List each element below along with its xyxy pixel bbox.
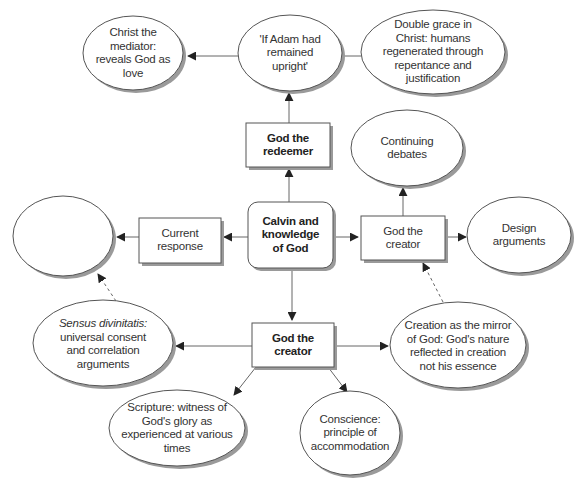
label-adam: 'If Adam had remained upright' [250,30,330,76]
edge-sensus-reformed-dashed [98,274,116,301]
label-sensus-rest: universal consent and correlation argume… [55,331,151,372]
label-conscience: Conscience: principle of accommodation [310,411,390,455]
label-double-grace: Double grace in Christ: humans regenerat… [378,24,488,80]
edge-creator-scripture [234,367,256,395]
label-calvin: Calvin and knowledge of God [255,206,326,264]
edge-creator-conscience [328,367,347,392]
label-barth: Continuing debates [367,130,447,166]
label-design: Design arguments [484,217,554,253]
label-scripture: Scripture: witness of God's glory as exp… [120,406,234,450]
label-creator: God the creator [256,325,330,365]
label-sensus-italic: Sensus divinitatis: [59,317,147,331]
label-mediator: Christ the mediator: reveals God as love [93,30,173,76]
edge-mirror-continuing-dashed [423,263,443,302]
label-mirror: Creation as the mirror of God: God's nat… [404,317,512,375]
label-redeemer: God the redeemer [252,125,324,165]
label-sensus: Sensus divinitatis: universal consent an… [55,315,151,373]
label-current: Current response [150,220,210,260]
label-continuing: God the creator [368,218,438,258]
label-reformed [25,213,101,259]
